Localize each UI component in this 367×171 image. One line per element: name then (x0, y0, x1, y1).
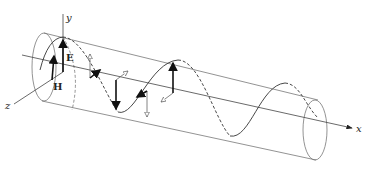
wave-segment (178, 60, 230, 136)
wave-segment (230, 83, 285, 136)
cylinder-right-end (303, 100, 327, 160)
left-cross-section-dashed (63, 37, 75, 110)
z-axis-label: z (4, 100, 11, 111)
x-axis-label: x (356, 123, 362, 134)
x-axis (22, 55, 352, 128)
y-axis-label: y (65, 12, 72, 23)
e-field-label: E (66, 52, 74, 63)
wave-curve (40, 37, 318, 136)
electric-field-vectors (63, 40, 173, 109)
cylinder-bottom-edge (42, 101, 316, 160)
wave-segment (40, 37, 63, 70)
hollow-arrow (116, 71, 128, 80)
em-wave-diagram: y z x E H (0, 0, 367, 171)
wave-segment (118, 60, 178, 112)
cylinder (32, 33, 327, 160)
h-field-label: H (53, 81, 62, 92)
h-vector-arrow (52, 56, 54, 80)
hollow-arrow (161, 93, 173, 102)
axes (14, 14, 352, 128)
